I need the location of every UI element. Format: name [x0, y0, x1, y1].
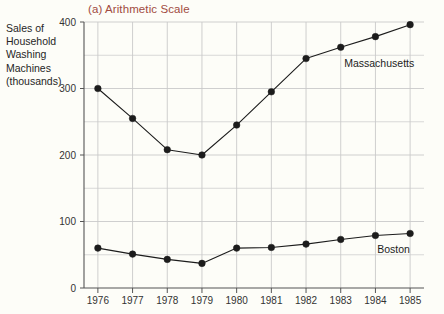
x-axis-tick-label: 1984 [364, 295, 387, 306]
series-line [98, 233, 410, 263]
y-axis-tick-label: 200 [59, 150, 76, 161]
x-axis-tick-label: 1979 [191, 295, 214, 306]
data-point-marker [95, 85, 102, 92]
y-axis-tick-labels: 0100200300400 [59, 17, 76, 294]
y-axis-tick-label: 100 [59, 216, 76, 227]
x-axis-tick-labels: 1976197719781979198019811982198319841985 [87, 295, 422, 306]
x-axis-tick-label: 1980 [226, 295, 249, 306]
data-point-marker [268, 89, 275, 96]
figure-arithmetic-scale: (a) Arithmetic Scale Sales of Household … [0, 0, 444, 314]
data-point-marker [233, 245, 240, 252]
data-point-marker [199, 152, 206, 159]
data-point-marker [337, 236, 344, 243]
data-point-marker [407, 230, 414, 237]
data-point-marker [303, 241, 310, 248]
x-axis-tick-label: 1978 [156, 295, 179, 306]
y-axis-tick-marks [80, 22, 84, 288]
x-axis-tick-marks [98, 288, 410, 293]
data-point-marker [372, 33, 379, 40]
y-axis-tick-label: 300 [59, 83, 76, 94]
y-axis-tick-label: 0 [70, 283, 76, 294]
y-axis-tick-label: 400 [59, 17, 76, 28]
data-point-marker [303, 55, 310, 62]
x-axis-tick-label: 1982 [295, 295, 318, 306]
data-point-marker [129, 115, 136, 122]
data-point-marker [129, 251, 136, 258]
x-axis-tick-label: 1983 [330, 295, 353, 306]
series-label: Boston [377, 243, 410, 255]
series-label: Massachusetts [344, 57, 414, 69]
data-point-marker [407, 21, 414, 28]
data-point-marker [199, 260, 206, 267]
data-point-marker [337, 44, 344, 51]
data-point-marker [233, 122, 240, 129]
x-axis-tick-label: 1977 [121, 295, 144, 306]
data-point-marker [95, 245, 102, 252]
line-chart-plot: 0100200300400 19761977197819791980198119… [0, 0, 444, 314]
x-axis-tick-label: 1981 [260, 295, 283, 306]
x-axis-tick-label: 1976 [87, 295, 110, 306]
data-point-marker [164, 256, 171, 263]
data-point-marker [268, 244, 275, 251]
series-inline-labels: MassachusettsBoston [344, 57, 414, 255]
x-axis-tick-label: 1985 [399, 295, 422, 306]
series-line [98, 25, 410, 155]
data-point-marker [164, 146, 171, 153]
data-point-marker [372, 232, 379, 239]
